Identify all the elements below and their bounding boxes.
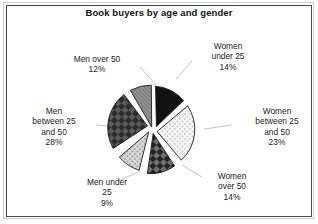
label-percent: 12% xyxy=(54,64,140,74)
label-line-1: Men under xyxy=(68,177,146,187)
label-percent: 28% xyxy=(12,137,96,147)
pie-chart: Women under 25 14% Women between 25 and … xyxy=(6,5,312,217)
slice-label-men-between-25-and-50: Men between 25 and 50 28% xyxy=(12,106,96,148)
label-line-2: under 25 xyxy=(192,51,264,61)
slice-label-men-under-25: Men under 25 9% xyxy=(68,177,146,208)
slice-label-women-between-25-and-50: Women between 25 and 50 23% xyxy=(234,106,318,148)
label-line-3: and 50 xyxy=(234,127,318,137)
label-line-1: Women xyxy=(234,106,318,116)
slice-label-women-under-25: Women under 25 14% xyxy=(192,41,264,72)
label-line-2: between 25 xyxy=(234,116,318,126)
label-percent: 14% xyxy=(192,62,264,72)
label-line-2: over 50 xyxy=(202,181,262,191)
label-line-3: and 50 xyxy=(12,127,96,137)
slice-label-women-over-50: Women over 50 14% xyxy=(202,171,262,202)
label-line-1: Men xyxy=(12,106,96,116)
label-line-1: Women xyxy=(192,41,264,51)
label-percent: 9% xyxy=(68,198,146,208)
pie-slices xyxy=(108,85,195,174)
label-percent: 14% xyxy=(202,192,262,202)
label-line-2: 25 xyxy=(68,187,146,197)
label-line-1: Men over 50 xyxy=(54,54,140,64)
label-percent: 23% xyxy=(234,137,318,147)
slice-label-men-over-50: Men over 50 12% xyxy=(54,54,140,75)
label-line-1: Women xyxy=(202,171,262,181)
label-line-2: between 25 xyxy=(12,116,96,126)
